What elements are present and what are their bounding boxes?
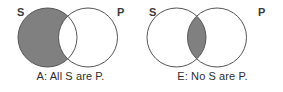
circle-label-p: P: [117, 7, 125, 18]
circle-label-s: S: [149, 7, 157, 18]
diagram-panel-e: S P E: No S are P.: [142, 0, 283, 92]
diagram-panel-a: S P A: All S are P.: [0, 0, 141, 92]
circle-label-s: S: [17, 7, 25, 18]
venn-diagram-figure: S P A: All S are P. S P E: No S are P.: [0, 0, 283, 92]
diagram-caption-a: A: All S are P.: [0, 70, 141, 83]
circle-label-p: P: [258, 7, 266, 18]
diagram-caption-e: E: No S are P.: [142, 70, 283, 83]
